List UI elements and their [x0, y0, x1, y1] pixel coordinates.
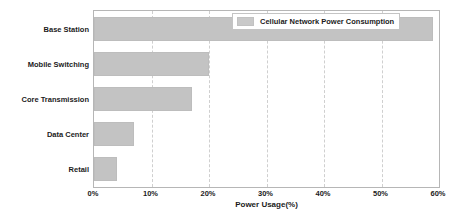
bar-chart: Base StationMobile SwitchingCore Transmi…: [0, 0, 472, 217]
x-axis-tick-label: 30%: [258, 189, 273, 198]
chart-legend: Cellular Network Power Consumption: [232, 13, 400, 30]
legend-label: Cellular Network Power Consumption: [260, 17, 394, 26]
bar: [94, 157, 117, 181]
x-axis-tick-label: 20%: [200, 189, 215, 198]
bar-row: [94, 152, 439, 187]
x-axis-tick-label: 40%: [315, 189, 330, 198]
bars-layer: [94, 11, 439, 187]
x-axis-tick-label: 60%: [430, 189, 445, 198]
y-axis-label: Mobile Switching: [0, 59, 89, 68]
bar-row: [94, 46, 439, 81]
bar-row: [94, 81, 439, 116]
y-axis-labels: Base StationMobile SwitchingCore Transmi…: [0, 10, 89, 188]
y-axis-label: Core Transmission: [0, 95, 89, 104]
y-axis-label: Retail: [0, 165, 89, 174]
bar: [94, 52, 209, 76]
plot-area: [93, 10, 440, 188]
legend-swatch-icon: [237, 17, 254, 26]
x-axis-tick-label: 10%: [143, 189, 158, 198]
bar: [94, 122, 134, 146]
bar: [94, 87, 192, 111]
y-axis-label: Base Station: [0, 24, 89, 33]
y-axis-label: Data Center: [0, 130, 89, 139]
x-axis-tick-label: 50%: [373, 189, 388, 198]
x-axis-tick-label: 0%: [88, 189, 99, 198]
x-axis-title: Power Usage(%): [93, 200, 440, 209]
bar-row: [94, 117, 439, 152]
